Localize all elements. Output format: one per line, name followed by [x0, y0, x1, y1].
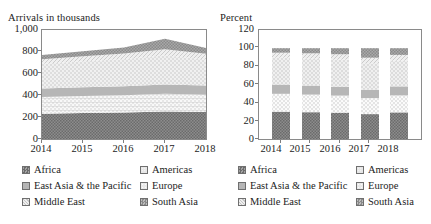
x-tick-label: 2014 [21, 143, 61, 155]
legend-label: Europe [152, 180, 182, 191]
legend-item-east-asia-pacific[interactable]: East Asia & the Pacific [22, 180, 131, 191]
legend-label: Americas [368, 164, 408, 175]
legend-label: South Asia [152, 196, 198, 207]
bar-group-2017 [361, 48, 379, 139]
y-tick-label: 100 [216, 42, 254, 52]
y-tick-label: 400 [0, 90, 38, 100]
y-tick-label: 1,000 [0, 24, 38, 34]
legend-item-south-asia[interactable]: South Asia [140, 196, 198, 207]
solid-grey-swatch-icon [238, 182, 246, 190]
legend-item-middle-east[interactable]: Middle East [238, 196, 301, 207]
y-tick-label: 20 [216, 116, 254, 126]
x-tick-label: 2017 [144, 143, 184, 155]
legend-item-americas[interactable]: Americas [356, 164, 408, 175]
left-x-axis: 2014 2015 2016 2017 2018 [0, 143, 215, 159]
right-y-axis: 120 100 80 60 40 20 0 [216, 22, 254, 147]
bar-group-2014 [272, 48, 290, 139]
dark-checker-swatch-icon [22, 166, 30, 174]
legend-item-americas[interactable]: Americas [140, 164, 192, 175]
bar-group-2016 [331, 48, 349, 139]
dark-checker-swatch-icon [238, 166, 246, 174]
bar-chart-svg [259, 30, 421, 139]
bar-group-2015 [302, 48, 320, 139]
x-tick-label: 2018 [368, 143, 408, 155]
y-tick-label: 600 [0, 68, 38, 78]
legend-label: Africa [34, 164, 61, 175]
bar-group-2018 [390, 48, 408, 139]
panel-share: Percent 120 100 80 60 40 20 0 [216, 0, 431, 224]
solid-grey-swatch-icon [22, 182, 30, 190]
legend-label: Middle East [250, 196, 301, 207]
right-legend: Africa Americas East Asia & the Pacific … [238, 164, 428, 214]
mid-checker-swatch-icon [356, 198, 364, 206]
y-tick-label: 40 [216, 97, 254, 107]
area-chart-svg [42, 30, 206, 139]
y-tick-label: 120 [216, 24, 254, 34]
legend-item-europe[interactable]: Europe [356, 180, 398, 191]
figure-root: Arrivals in thousands 1,000 800 600 400 … [0, 0, 431, 224]
dotted-light-swatch-icon [356, 166, 364, 174]
y-tick-label: 80 [216, 60, 254, 70]
legend-item-europe[interactable]: Europe [140, 180, 182, 191]
faint-dots-swatch-icon [356, 182, 364, 190]
right-x-axis: 2014 2015 2016 2017 2018 [216, 143, 431, 159]
legend-item-south-asia[interactable]: South Asia [356, 196, 414, 207]
y-tick-label: 200 [0, 112, 38, 122]
faint-dots-swatch-icon [140, 182, 148, 190]
area-americas [42, 94, 206, 114]
legend-label: South Asia [368, 196, 414, 207]
hatch-light-swatch-icon [238, 198, 246, 206]
x-tick-label: 2015 [62, 143, 102, 155]
legend-item-africa[interactable]: Africa [238, 164, 277, 175]
bar-chart-plot [258, 29, 422, 140]
y-tick-label: 60 [216, 79, 254, 89]
panel-arrivals: Arrivals in thousands 1,000 800 600 400 … [0, 0, 215, 224]
left-y-axis: 1,000 800 600 400 200 0 [0, 22, 38, 147]
legend-label: Europe [368, 180, 398, 191]
area-africa [42, 112, 206, 140]
legend-item-middle-east[interactable]: Middle East [22, 196, 85, 207]
legend-item-east-asia-pacific[interactable]: East Asia & the Pacific [238, 180, 347, 191]
dotted-light-swatch-icon [140, 166, 148, 174]
hatch-light-swatch-icon [22, 198, 30, 206]
mid-checker-swatch-icon [140, 198, 148, 206]
y-tick-label: 800 [0, 46, 38, 56]
legend-label: Africa [250, 164, 277, 175]
area-chart-plot [41, 29, 207, 140]
x-tick-label: 2016 [103, 143, 143, 155]
legend-label: East Asia & the Pacific [250, 180, 347, 191]
left-legend: Africa Americas East Asia & the Pacific … [22, 164, 212, 214]
legend-label: Americas [152, 164, 192, 175]
legend-label: Middle East [34, 196, 85, 207]
legend-label: East Asia & the Pacific [34, 180, 131, 191]
legend-item-africa[interactable]: Africa [22, 164, 61, 175]
